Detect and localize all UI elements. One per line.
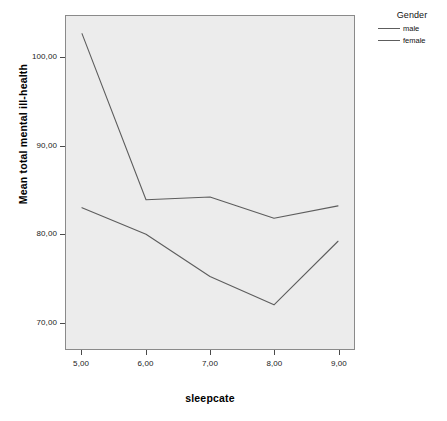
legend: Gender malefemale <box>378 10 446 47</box>
y-tick-mark <box>60 146 65 147</box>
x-tick-mark <box>81 350 82 355</box>
x-tick-label: 9,00 <box>319 359 359 368</box>
x-axis-title: sleepcate <box>65 392 355 404</box>
line-chart: 70,0080,0090,00100,00 Mean total mental … <box>0 0 447 421</box>
legend-item-label: female <box>403 37 426 45</box>
legend-item-label: male <box>403 25 419 33</box>
legend-item-female[interactable]: female <box>378 35 446 46</box>
x-tick-mark <box>210 350 211 355</box>
y-tick-mark <box>60 57 65 58</box>
x-tick-label: 5,00 <box>61 359 101 368</box>
legend-title: Gender <box>378 10 446 20</box>
x-tick-mark <box>274 350 275 355</box>
y-tick-mark <box>60 323 65 324</box>
y-tick-mark <box>60 234 65 235</box>
series-line-female <box>82 34 338 219</box>
y-tick-label: 70,00 <box>11 318 57 327</box>
x-tick-label: 7,00 <box>190 359 230 368</box>
x-tick-mark <box>146 350 147 355</box>
x-tick-label: 6,00 <box>126 359 166 368</box>
plot-lines <box>66 16 354 349</box>
series-line-male <box>82 208 338 305</box>
legend-line-swatch <box>378 40 400 41</box>
legend-line-swatch <box>378 28 400 29</box>
legend-items: malefemale <box>378 23 446 46</box>
y-tick-label: 80,00 <box>11 229 57 238</box>
legend-item-male[interactable]: male <box>378 23 446 34</box>
x-tick-label: 8,00 <box>254 359 294 368</box>
plot-area <box>65 15 355 350</box>
y-axis-title: Mean total mental ill-health <box>17 39 29 229</box>
x-tick-mark <box>339 350 340 355</box>
